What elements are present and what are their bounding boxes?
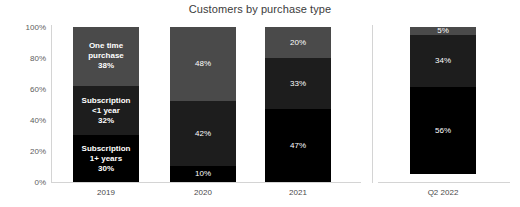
x-axis-line-secondary <box>378 182 510 183</box>
bar-segment-label: 20% <box>290 38 306 48</box>
bar-segment-q2-2022-sub-lt1y[interactable]: 34% <box>410 35 476 88</box>
bar-segment-2020-one-time[interactable]: 48% <box>170 27 236 101</box>
bar-2019[interactable]: One time purchase 38% Subscription <1 ye… <box>73 27 139 182</box>
bar-segment-2020-sub-1plus[interactable]: 10% <box>170 166 236 182</box>
bar-segment-2020-sub-lt1y[interactable]: 42% <box>170 101 236 166</box>
bar-segment-2021-sub-lt1y[interactable]: 33% <box>265 58 331 109</box>
y-tick-label-60: 60% <box>8 85 46 94</box>
bar-segment-label: 34% <box>435 56 451 66</box>
bar-2020[interactable]: 48% 42% 10% <box>170 27 236 182</box>
bar-segment-2021-one-time[interactable]: 20% <box>265 27 331 58</box>
bar-segment-label: 47% <box>290 141 306 151</box>
bar-segment-2021-sub-1plus[interactable]: 47% <box>265 109 331 182</box>
y-axis: 100% 80% 60% 40% 20% 0% <box>0 0 46 207</box>
x-axis-label-q2-2022: Q2 2022 <box>428 188 459 197</box>
bar-segment-2019-sub-lt1y[interactable]: Subscription <1 year 32% <box>73 86 139 136</box>
y-tick-label-100: 100% <box>8 23 46 32</box>
bar-segment-label: 33% <box>290 79 306 89</box>
chart-container: Customers by purchase type 100% 80% 60% … <box>0 0 520 207</box>
y-tick-label-0: 0% <box>8 178 46 187</box>
y-tick-label-20: 20% <box>8 147 46 156</box>
x-axis-label-2020: 2020 <box>194 188 212 197</box>
bar-segment-2019-one-time[interactable]: One time purchase 38% <box>73 27 139 86</box>
y-tick-label-80: 80% <box>8 54 46 63</box>
bar-segment-label: Subscription 1+ years 30% <box>82 144 131 174</box>
x-axis-label-2019: 2019 <box>97 188 115 197</box>
bar-segment-label: 10% <box>195 169 211 179</box>
chart-title: Customers by purchase type <box>0 3 520 15</box>
bar-segment-label: 42% <box>195 129 211 139</box>
bar-2021[interactable]: 20% 33% 47% <box>265 27 331 182</box>
bar-segment-label: 56% <box>435 126 451 136</box>
bar-segment-q2-2022-one-time[interactable]: 5% <box>410 27 476 35</box>
y-axis-line <box>51 25 52 183</box>
bar-segment-2019-sub-1plus[interactable]: Subscription 1+ years 30% <box>73 135 139 182</box>
x-axis-label-2021: 2021 <box>289 188 307 197</box>
bar-segment-q2-2022-sub-1plus[interactable]: 56% <box>410 87 476 174</box>
bar-segment-label: 48% <box>195 59 211 69</box>
bar-q2-2022[interactable]: 5% 34% 56% <box>410 27 476 182</box>
x-axis-line <box>51 182 361 183</box>
bar-segment-label: One time purchase 38% <box>88 41 124 71</box>
panel-divider <box>372 25 373 183</box>
bar-segment-label: Subscription <1 year 32% <box>82 96 131 126</box>
y-tick-label-40: 40% <box>8 116 46 125</box>
